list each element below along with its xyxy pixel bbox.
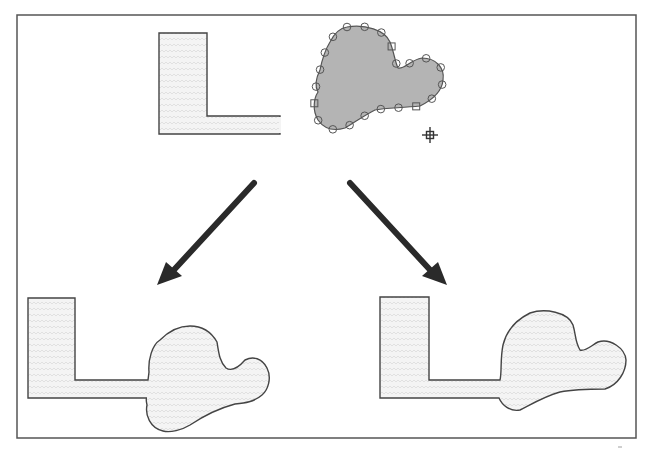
diagram-canvas [0, 0, 650, 453]
scan-speck [618, 446, 622, 448]
